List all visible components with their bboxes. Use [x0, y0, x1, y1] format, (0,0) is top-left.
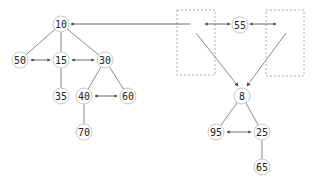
merge-arrow-right [247, 33, 286, 86]
node-label: 10 [55, 19, 67, 30]
node-label: 70 [78, 127, 90, 138]
heap-node-70: 70 [76, 124, 92, 140]
node-label: 60 [122, 91, 134, 102]
node-label: 95 [210, 127, 222, 138]
node-label: 35 [55, 91, 67, 102]
node-label: 8 [239, 91, 245, 102]
heap-node-65: 65 [254, 159, 270, 175]
binomial-heap-diagram: 1050153035406070558952565 [0, 0, 313, 186]
heap-node-15: 15 [53, 52, 69, 68]
heap-node-10: 10 [53, 16, 69, 32]
heap-node-40: 40 [76, 88, 92, 104]
heap-node-95: 95 [208, 124, 224, 140]
heap-nodes: 1050153035406070558952565 [12, 16, 270, 175]
merge-arrow-left [196, 33, 238, 86]
node-label: 55 [234, 20, 246, 31]
heap-node-50: 50 [12, 52, 28, 68]
node-label: 50 [14, 55, 26, 66]
node-label: 30 [99, 55, 111, 66]
node-label: 15 [55, 55, 67, 66]
heap-node-8: 8 [234, 88, 250, 104]
right-empty-slot-box [266, 10, 304, 76]
heap-node-30: 30 [97, 52, 113, 68]
node-label: 40 [78, 91, 90, 102]
heap-node-60: 60 [120, 88, 136, 104]
heap-node-25: 25 [254, 124, 270, 140]
heap-node-55: 55 [232, 17, 248, 33]
sibling-links [31, 24, 286, 132]
left-empty-slot-box [177, 10, 215, 75]
node-label: 65 [256, 162, 268, 173]
node-label: 25 [256, 127, 268, 138]
heap-node-35: 35 [53, 88, 69, 104]
